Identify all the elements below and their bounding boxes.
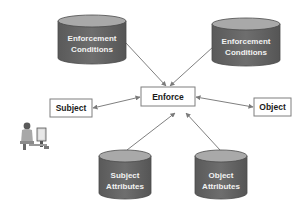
store-label-line1: Enforcement (68, 34, 117, 43)
store-label-line1: Object (209, 171, 234, 180)
abac-enforcement-diagram: Enforcement Conditions Enforcement Condi… (0, 0, 307, 214)
arrow-left-conditions-to-enforce (126, 43, 166, 86)
person-at-computer-icon (20, 123, 49, 150)
enforce-label: Enforce (152, 92, 184, 102)
store-label-line1: Subject (111, 171, 140, 180)
arrow-object-attributes-to-enforce (186, 113, 220, 150)
enforcement-conditions-store-left: Enforcement Conditions (58, 15, 126, 64)
subject-node: Subject (50, 99, 92, 117)
object-attributes-store: Object Attributes (195, 150, 247, 199)
arrow-enforce-object (196, 97, 253, 107)
enforcement-conditions-store-right: Enforcement Conditions (212, 18, 280, 66)
store-label-line2: Conditions (225, 48, 267, 57)
enforce-node: Enforce (141, 87, 195, 106)
object-label: Object (259, 102, 286, 112)
store-label-line2: Attributes (202, 182, 240, 191)
store-label-line1: Enforcement (222, 37, 271, 46)
subject-label: Subject (56, 103, 87, 113)
arrow-subject-enforce (93, 97, 140, 108)
arrow-right-conditions-to-enforce (170, 47, 213, 86)
arrow-subject-attributes-to-enforce (127, 113, 175, 150)
store-label-line2: Attributes (106, 182, 144, 191)
subject-attributes-store: Subject Attributes (99, 150, 151, 199)
store-label-line2: Conditions (71, 45, 113, 54)
object-node: Object (254, 98, 291, 116)
